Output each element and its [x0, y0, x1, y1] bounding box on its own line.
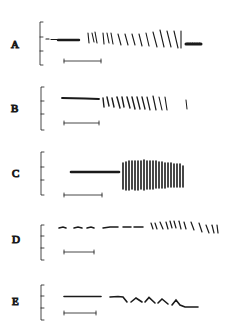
panel-a: A — [11, 22, 201, 65]
panel-e: E — [12, 285, 198, 320]
panel-b: B — [11, 87, 187, 130]
sonogram-d — [59, 221, 218, 233]
panel-c: C — [12, 152, 183, 197]
frequency-bracket-c — [41, 152, 44, 195]
time-scale-bar-d — [64, 250, 94, 254]
time-scale-bar-e — [64, 311, 96, 315]
panel-label-a: A — [11, 38, 19, 50]
sonogram-b — [62, 96, 187, 110]
frequency-bracket-d — [41, 225, 44, 260]
panel-label-d: D — [12, 233, 20, 245]
frequency-bracket-b — [41, 87, 44, 130]
panel-label-c: C — [12, 167, 19, 179]
sonogram-a — [46, 30, 201, 48]
time-scale-bar-a — [64, 59, 101, 63]
frequency-bracket-e — [41, 285, 44, 320]
panel-label-b: B — [11, 102, 18, 114]
panel-label-e: E — [12, 295, 19, 307]
time-scale-bar-b — [64, 121, 99, 125]
time-scale-bar-c — [64, 193, 102, 197]
sonogram-e — [64, 297, 198, 308]
sonogram-figure: A — [0, 0, 228, 328]
frequency-bracket-a — [40, 22, 43, 65]
panel-d: D — [12, 221, 218, 260]
sonogram-c — [71, 160, 183, 190]
